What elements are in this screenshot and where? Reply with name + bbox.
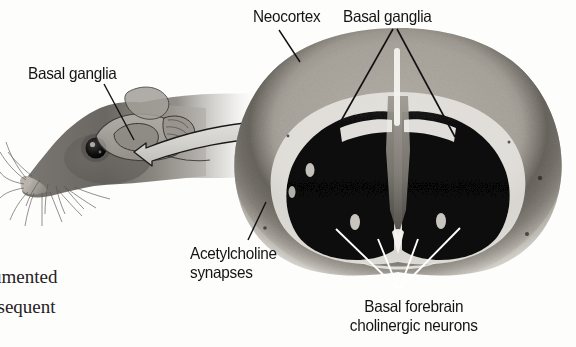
label-basal-forebrain-cholinergic-neurons: Basal forebrain cholinergic neurons [350, 297, 478, 335]
label-basal-ganglia-mouse: Basal ganglia [28, 64, 117, 83]
label-acetylcholine-synapses: Acetylcholine synapses [190, 244, 277, 282]
mouse-eye-highlight [90, 142, 95, 147]
label-acetylcholine-line2: synapses [190, 263, 277, 282]
nucleus-spot-left-lower [350, 214, 360, 230]
nucleus-spot-left-edge [289, 186, 296, 198]
figure-artwork [0, 0, 576, 347]
label-basal-ganglia-brain: Basal ganglia [343, 7, 432, 26]
body-text-fragment-consequent: osequent [0, 292, 56, 322]
label-acetylcholine-line1: Acetylcholine [190, 244, 277, 263]
coronal-brain-section [230, 23, 566, 288]
mouse-head-illustration [0, 84, 262, 226]
nucleus-spot-right-lower [436, 213, 446, 229]
third-ventricle [394, 48, 400, 126]
figure-container: Basal ganglia Neocortex Basal ganglia Ac… [0, 0, 576, 347]
mouse-eye-highlight-small [99, 151, 102, 154]
body-text-fragment-documented: umented [0, 262, 57, 292]
label-basal-forebrain-line1: Basal forebrain [350, 297, 478, 316]
nucleus-spot-left-upper [306, 163, 315, 177]
label-basal-forebrain-line2: cholinergic neurons [350, 316, 478, 335]
label-neocortex: Neocortex [253, 7, 320, 26]
